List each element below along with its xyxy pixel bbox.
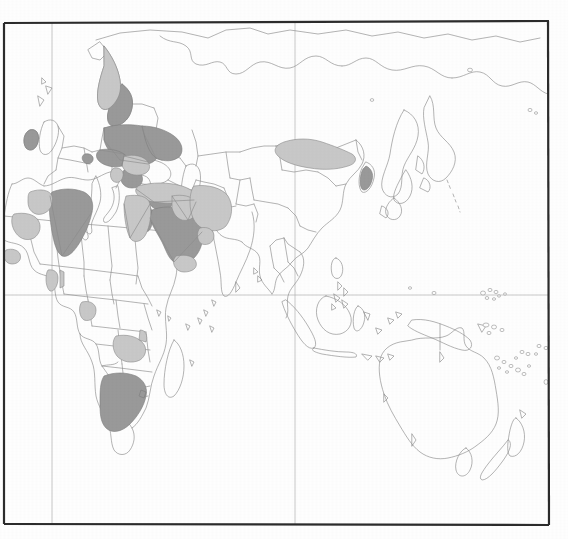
world-map-figure: .ln { fill:none; stroke:#8c8c8c; stroke-… <box>0 0 568 539</box>
world-map-canvas: .ln { fill:none; stroke:#8c8c8c; stroke-… <box>0 0 568 539</box>
